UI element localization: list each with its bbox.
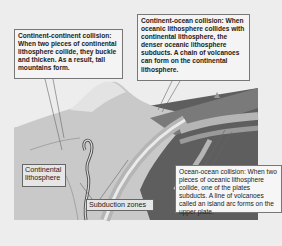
- label-subduction-zones: Subduction zones: [86, 199, 154, 211]
- callout-continent-ocean: Continent-ocean collision: When oceanic …: [137, 14, 250, 81]
- label-continental-lithosphere: Continental lithosphere: [22, 164, 66, 187]
- plate-collision-diagram: Continent-continent collision: When two …: [0, 0, 282, 246]
- callout-continent-continent: Continent-continent collision: When two …: [14, 29, 123, 79]
- callout-ocean-ocean: Ocean-ocean collision: When two pieces o…: [175, 165, 282, 213]
